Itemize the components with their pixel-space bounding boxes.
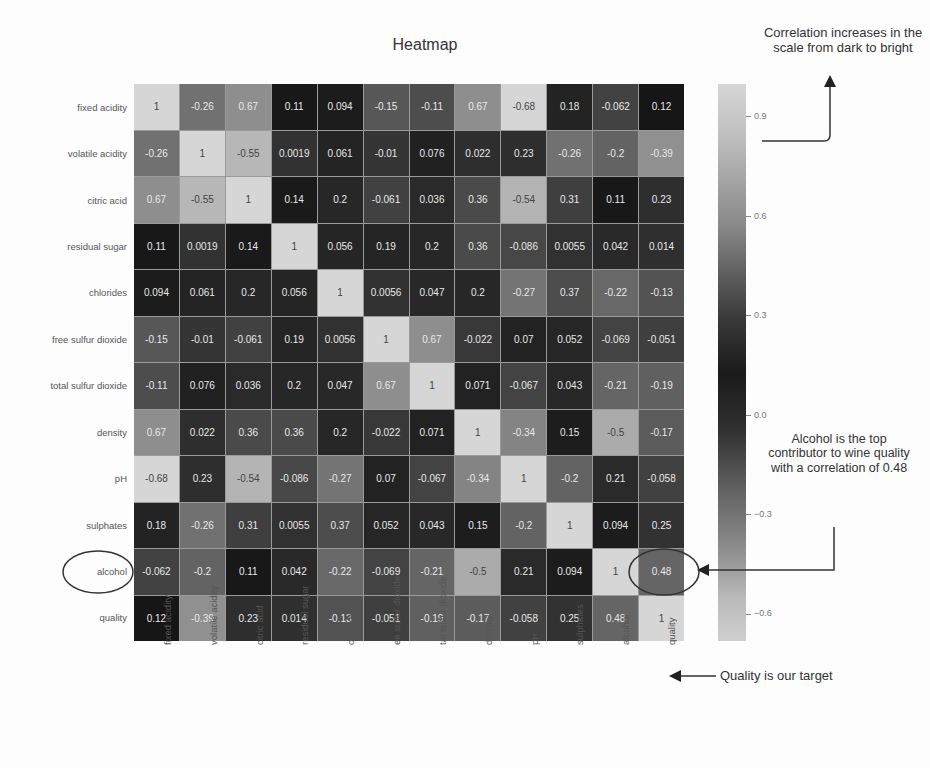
heatmap-cell: 0.11	[272, 84, 317, 130]
colorbar-tick: −0.3	[746, 509, 772, 519]
y-axis-label: free sulfur dioxide	[0, 316, 127, 362]
heatmap-cell: -0.022	[364, 410, 409, 456]
heatmap-cell: -0.26	[180, 84, 225, 130]
heatmap-cell: 0.036	[226, 363, 271, 409]
y-axis-label: alcohol	[0, 548, 127, 594]
heatmap-cell: 0.047	[410, 270, 455, 316]
x-axis-label: sulphates	[574, 604, 585, 645]
heatmap-cell: 0.18	[547, 84, 592, 130]
heatmap-cell: 0.23	[639, 177, 684, 223]
colorbar-tick: 0.9	[746, 111, 767, 121]
heatmap-cell: -0.26	[134, 131, 179, 177]
heatmap-cell: -0.2	[593, 131, 638, 177]
heatmap-cell: -0.15	[364, 84, 409, 130]
heatmap-cell: 1	[318, 270, 363, 316]
heatmap-cell: -0.061	[364, 177, 409, 223]
heatmap-cell: -0.067	[410, 456, 455, 502]
heatmap-cell: 1	[364, 317, 409, 363]
heatmap-cell: 0.18	[134, 503, 179, 549]
heatmap-cell: 0.0019	[180, 224, 225, 270]
y-axis-label: pH	[0, 455, 127, 501]
heatmap-cell: 0.36	[455, 177, 500, 223]
heatmap-cell: -0.086	[272, 456, 317, 502]
heatmap-cell: 0.0056	[318, 317, 363, 363]
heatmap-cell: -0.01	[180, 317, 225, 363]
heatmap-cell: 0.11	[226, 549, 271, 595]
heatmap-cell: 0.094	[593, 503, 638, 549]
heatmap-cell: 0.0055	[547, 224, 592, 270]
heatmap-cell: -0.21	[593, 363, 638, 409]
heatmap-cell: -0.069	[593, 317, 638, 363]
heatmap-cell: 0.37	[547, 270, 592, 316]
colorbar	[718, 84, 746, 641]
heatmap-cell: 1	[272, 224, 317, 270]
heatmap-cell: 0.052	[364, 503, 409, 549]
heatmap-cell: -0.01	[364, 131, 409, 177]
heatmap-cell: -0.062	[593, 84, 638, 130]
heatmap-cell: -0.68	[134, 456, 179, 502]
heatmap-cell: 0.48	[639, 549, 684, 595]
heatmap-cell: 1	[639, 596, 684, 642]
annotation-scale-note: Correlation increases in the scale from …	[758, 26, 928, 56]
y-axis-label: fixed acidity	[0, 84, 127, 130]
heatmap-cell: 0.0019	[272, 131, 317, 177]
heatmap-cell: 1	[547, 503, 592, 549]
heatmap-cell: 0.31	[226, 503, 271, 549]
x-axis-label: ee sulfur dioxide	[391, 576, 402, 645]
heatmap-cell: 0.67	[134, 410, 179, 456]
y-axis-label: total sulfur dioxide	[0, 363, 127, 409]
heatmap-cell: 0.0055	[272, 503, 317, 549]
heatmap-cell: -0.067	[501, 363, 546, 409]
heatmap-cell: 0.071	[455, 363, 500, 409]
heatmap-cell: -0.2	[547, 456, 592, 502]
heatmap-cell: 0.14	[226, 224, 271, 270]
heatmap-cell: 1	[455, 410, 500, 456]
heatmap-cell: 0.23	[180, 456, 225, 502]
heatmap-cell: -0.26	[547, 131, 592, 177]
heatmap-cell: 0.36	[226, 410, 271, 456]
x-axis-label: tal sulfur dioxide	[437, 576, 448, 645]
heatmap-cell: -0.34	[455, 456, 500, 502]
heatmap-cell: 0.11	[134, 224, 179, 270]
heatmap-cell: 0.25	[547, 596, 592, 642]
heatmap-cell: -0.086	[501, 224, 546, 270]
heatmap-cell: 0.2	[318, 177, 363, 223]
heatmap-cell: -0.5	[593, 410, 638, 456]
heatmap-cell: 0.67	[226, 84, 271, 130]
heatmap-cell: 0.67	[410, 317, 455, 363]
heatmap-cell: 0.31	[547, 177, 592, 223]
y-axis-label: density	[0, 409, 127, 455]
x-axis-label: pH	[529, 633, 540, 645]
heatmap-cell: 0.36	[272, 410, 317, 456]
annotation-target-note: Quality is our target	[720, 669, 880, 684]
x-axis-label: residual sugar	[299, 585, 310, 645]
heatmap-cell: 1	[180, 131, 225, 177]
heatmap-cell: -0.13	[639, 270, 684, 316]
heatmap-cell: -0.27	[318, 456, 363, 502]
heatmap-cell: -0.058	[639, 456, 684, 502]
x-axis-label: quality	[666, 618, 677, 645]
heatmap-cell: -0.54	[501, 177, 546, 223]
heatmap-cell: -0.062	[134, 549, 179, 595]
heatmap-cell: 0.036	[410, 177, 455, 223]
heatmap-cell: 0.2	[410, 224, 455, 270]
heatmap-grid: 1-0.260.670.110.094-0.15-0.110.67-0.680.…	[134, 84, 684, 641]
heatmap-cell: -0.061	[226, 317, 271, 363]
y-axis-label: chlorides	[0, 270, 127, 316]
heatmap-cell: 0.047	[318, 363, 363, 409]
heatmap-cell: -0.68	[501, 84, 546, 130]
heatmap-cell: 0.061	[318, 131, 363, 177]
heatmap-cell: 0.056	[318, 224, 363, 270]
heatmap-cell: 0.37	[318, 503, 363, 549]
x-axis-label: chlorides	[345, 607, 356, 645]
heatmap-cell: -0.27	[501, 270, 546, 316]
heatmap-cell: 0.25	[639, 503, 684, 549]
heatmap-cell: -0.19	[639, 363, 684, 409]
heatmap-cell: 0.23	[501, 131, 546, 177]
y-axis-labels: fixed acidityvolatile aciditycitric acid…	[0, 84, 127, 641]
heatmap-cell: 1	[501, 456, 546, 502]
x-axis-label: fixed acidity	[162, 595, 173, 645]
heatmap-cell: 0.0056	[364, 270, 409, 316]
x-axis-label: citric acid	[254, 605, 265, 645]
heatmap-cell: 1	[410, 363, 455, 409]
